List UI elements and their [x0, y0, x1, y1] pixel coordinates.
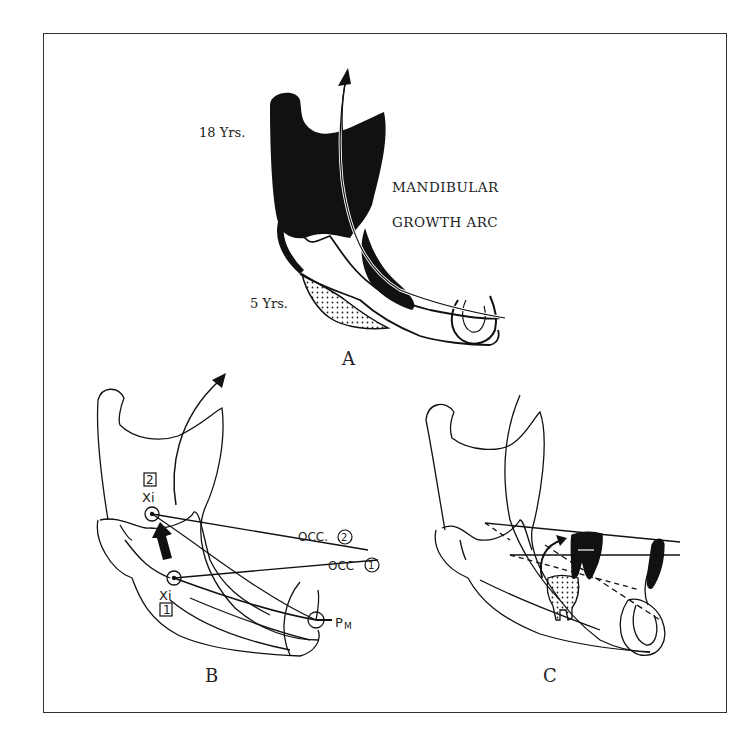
xi2-label: Xi	[142, 490, 155, 505]
occ1-label: OCC	[328, 559, 354, 573]
erupted-molar	[571, 532, 602, 579]
xi1-number: 1	[163, 603, 171, 617]
label-18-yrs: 18 Yrs.	[199, 125, 245, 140]
occ2-line	[152, 514, 368, 550]
panel-c	[426, 395, 680, 655]
panel-label-b: B	[205, 665, 218, 686]
developing-molar	[547, 575, 579, 620]
rotation-arrow	[541, 540, 562, 578]
occ2-number: 2	[341, 532, 347, 543]
occ1-number: 1	[368, 560, 374, 571]
label-5-yrs: 5 Yrs.	[250, 296, 288, 311]
panel-b	[97, 373, 379, 656]
panel-label-a: A	[341, 348, 356, 369]
xi2-number: 2	[146, 473, 154, 487]
pm-label: P	[335, 615, 343, 630]
symphysis-outline	[452, 296, 496, 344]
mandible-18yrs-body	[361, 228, 414, 310]
panel-a: 18 Yrs. MANDIBULAR GROWTH ARC 5 Yrs. A	[199, 68, 505, 369]
mandible-outline-2	[97, 389, 318, 640]
xi1-label: Xi	[159, 588, 172, 603]
mandibular-growth-figure: 18 Yrs. MANDIBULAR GROWTH ARC 5 Yrs. A	[0, 0, 753, 730]
panel-label-c: C	[543, 665, 557, 686]
incisor	[647, 539, 664, 588]
mandible-18yrs-shape	[270, 93, 386, 238]
occ2-label: OCC.	[298, 530, 328, 544]
pm-label-sub: M	[344, 621, 352, 631]
arrowhead-icon	[338, 68, 351, 86]
label-growth-arc: GROWTH ARC	[392, 214, 498, 230]
label-mandibular: MANDIBULAR	[392, 179, 499, 195]
